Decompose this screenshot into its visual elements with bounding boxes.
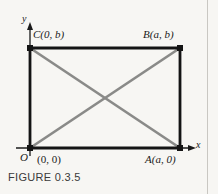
vertex-label-B: B(a, b) bbox=[143, 29, 174, 40]
figure-container: y x C(0, b) B(a, b) O (0, 0) A(a, 0) FIG… bbox=[0, 0, 218, 194]
vertex-label-C: C(0, b) bbox=[33, 29, 64, 40]
x-axis-label: x bbox=[196, 140, 200, 150]
diagonals bbox=[30, 48, 180, 148]
y-axis-label: y bbox=[22, 14, 26, 24]
vertex-label-origin: (0, 0) bbox=[37, 154, 61, 165]
vertex-dot-B bbox=[177, 45, 183, 51]
vertex-dot-A bbox=[177, 145, 183, 151]
figure-caption: FIGURE 0.3.5 bbox=[8, 172, 81, 183]
origin-axis-label: O bbox=[20, 152, 28, 163]
vertex-label-A: A(a, 0) bbox=[145, 154, 176, 165]
vertex-dot-C bbox=[27, 45, 33, 51]
